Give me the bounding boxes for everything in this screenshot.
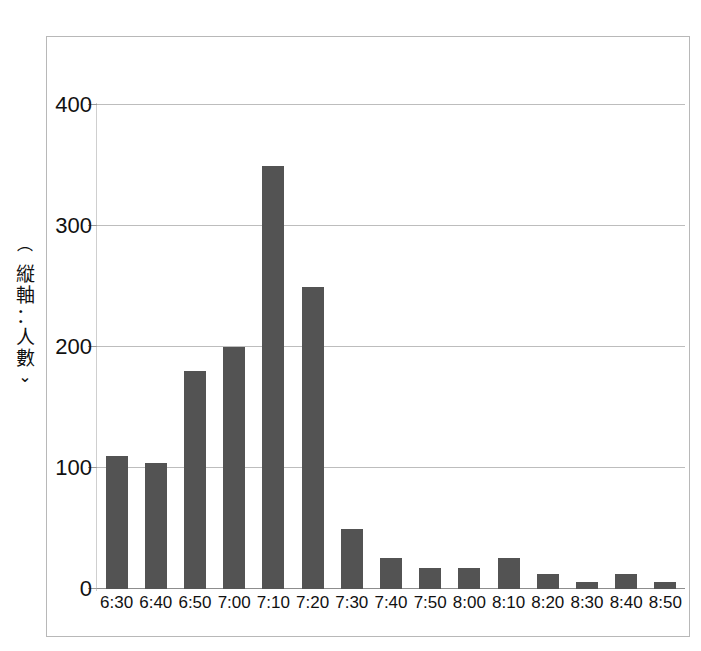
x-axis-tick-label: 6:50: [175, 592, 214, 614]
x-axis-tick-label: 8:00: [450, 592, 489, 614]
x-axis-tick-label: 8:40: [607, 592, 646, 614]
bar[interactable]: [380, 558, 402, 589]
bar-slot: [136, 105, 175, 589]
bar[interactable]: [615, 574, 637, 589]
bar-slot: [567, 105, 606, 589]
bar-slot: [411, 105, 450, 589]
bar-slot: [607, 105, 646, 589]
bar[interactable]: [498, 558, 520, 589]
y-axis-tick-label: 300: [34, 215, 92, 237]
y-axis-tick-label: 200: [34, 336, 92, 358]
y-axis-tick-label: 0: [34, 578, 92, 600]
x-axis-tick-label: 7:30: [332, 592, 371, 614]
bar-slot: [332, 105, 371, 589]
x-axis-tick-label: 8:50: [646, 592, 685, 614]
bar[interactable]: [341, 529, 363, 590]
bar[interactable]: [576, 582, 598, 589]
bar-slot: [175, 105, 214, 589]
x-axis-tick-label: 7:50: [411, 592, 450, 614]
bar[interactable]: [262, 166, 284, 590]
x-axis-tick-label: 6:40: [136, 592, 175, 614]
bar-slot: [215, 105, 254, 589]
bar-slot: [371, 105, 410, 589]
x-axis-tick-label: 7:00: [215, 592, 254, 614]
bar-slot: [489, 105, 528, 589]
x-axis-tick-label: 8:30: [567, 592, 606, 614]
y-axis-tick-labels: 0100200300400: [30, 105, 92, 589]
x-axis-tick-label: 7:20: [293, 592, 332, 614]
x-axis-tick-label: 7:10: [254, 592, 293, 614]
x-axis-tick-label: 8:10: [489, 592, 528, 614]
y-axis-tick-label: 100: [34, 457, 92, 479]
bar[interactable]: [537, 574, 559, 589]
bar-slot: [450, 105, 489, 589]
bar[interactable]: [419, 568, 441, 589]
bar[interactable]: [302, 287, 324, 590]
bar[interactable]: [106, 456, 128, 589]
bar-slot: [646, 105, 685, 589]
bar-slot: [528, 105, 567, 589]
y-axis-tick-label: 400: [34, 94, 92, 116]
x-axis-tick-label: 8:20: [528, 592, 567, 614]
bar[interactable]: [654, 582, 676, 589]
bar[interactable]: [184, 371, 206, 589]
bar[interactable]: [458, 568, 480, 589]
bar-slot: [254, 105, 293, 589]
x-axis-tick-label: 7:40: [371, 592, 410, 614]
bar[interactable]: [223, 347, 245, 589]
plot-area: [97, 105, 685, 589]
bar-slot: [293, 105, 332, 589]
chart-figure: ⌒縦軸：人數⌄ 0100200300400 6:306:406:507:007:…: [0, 0, 701, 651]
bar[interactable]: [145, 463, 167, 589]
bar-slot: [97, 105, 136, 589]
x-axis-tick-label: 6:30: [97, 592, 136, 614]
x-axis-tick-labels: 6:306:406:507:007:107:207:307:407:508:00…: [97, 592, 685, 618]
